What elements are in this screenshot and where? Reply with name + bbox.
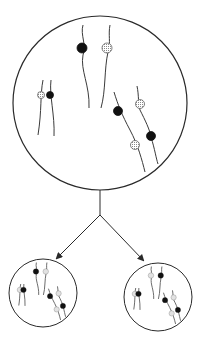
chromosome <box>47 80 55 136</box>
chromosome <box>171 290 181 320</box>
black-allele-icon <box>147 132 156 141</box>
black-allele-icon <box>175 307 180 312</box>
black-allele-icon <box>21 287 26 292</box>
chromatid-strand <box>38 80 43 135</box>
chromatid-strand <box>43 263 47 295</box>
hatched-allele-icon <box>148 273 153 278</box>
cell-membrane <box>13 16 187 190</box>
chromosome <box>77 25 89 108</box>
black-allele-icon <box>162 297 167 302</box>
hatched-allele-icon <box>171 295 176 300</box>
arrow-right-icon <box>100 215 143 260</box>
hatched-allele-icon <box>169 311 174 316</box>
chromosome <box>132 288 137 309</box>
chromosome <box>43 263 48 295</box>
chromosome <box>17 284 22 305</box>
black-allele-icon <box>33 269 38 274</box>
hatched-allele-icon <box>54 307 59 312</box>
arrow-left-icon <box>57 215 100 258</box>
chromatid-strand <box>51 80 55 136</box>
hatched-allele-icon <box>136 100 145 109</box>
black-allele-icon <box>60 303 65 308</box>
hatched-allele-icon <box>38 92 45 99</box>
hatched-allele-icon <box>131 141 140 150</box>
chromatid-strand <box>36 263 39 295</box>
hatched-allele-icon <box>43 269 48 274</box>
chromatid-strand <box>101 25 110 108</box>
chromosome <box>56 286 66 316</box>
chromosome <box>33 263 38 295</box>
cell-membrane <box>124 263 192 331</box>
daughter-cell-right <box>124 263 192 331</box>
chromosome <box>21 284 26 306</box>
parent-cell <box>13 16 187 190</box>
black-allele-icon <box>47 92 54 99</box>
chromatid-strand <box>137 86 158 164</box>
chromosome <box>158 267 163 299</box>
diagram-canvas <box>0 0 199 355</box>
black-allele-icon <box>114 107 123 116</box>
hatched-allele-icon <box>102 43 112 53</box>
black-allele-icon <box>77 43 87 53</box>
chromosome <box>101 25 112 108</box>
chromatid-strand <box>158 267 162 299</box>
chromatid-strand <box>82 25 89 108</box>
chromosome <box>136 288 141 310</box>
black-allele-icon <box>47 293 52 298</box>
chromosome <box>148 267 153 299</box>
division-arrows <box>57 190 143 260</box>
hatched-allele-icon <box>56 291 61 296</box>
chromatid-strand <box>151 267 154 299</box>
chromosome <box>38 80 45 135</box>
black-allele-icon <box>136 291 141 296</box>
cell-membrane <box>9 259 77 327</box>
daughter-cells <box>9 259 192 331</box>
black-allele-icon <box>158 273 163 278</box>
daughter-cell-left <box>9 259 77 327</box>
